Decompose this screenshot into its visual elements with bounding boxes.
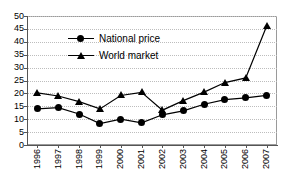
data-point-marker <box>200 88 208 95</box>
x-tick-mark <box>267 145 268 148</box>
data-point-marker <box>201 101 208 108</box>
data-point-marker <box>54 92 62 99</box>
data-point-marker <box>242 74 250 81</box>
y-tick-label: 15 <box>0 102 24 111</box>
data-point-marker <box>117 116 124 123</box>
triangle-marker-icon <box>77 52 85 59</box>
legend-label-world-market: World market <box>94 51 158 61</box>
y-tick-label: 45 <box>0 24 24 33</box>
x-tick-mark <box>183 145 184 148</box>
y-axis-tick-labels: 50454035302520151050 <box>0 16 24 145</box>
data-point-marker <box>117 91 125 98</box>
y-tick-label: 0 <box>0 141 24 150</box>
x-tick-label: 1999 <box>94 149 105 189</box>
data-point-marker <box>34 105 41 112</box>
y-tick-label: 50 <box>0 12 24 21</box>
x-axis-line <box>27 145 278 146</box>
y-tick-label: 35 <box>0 50 24 59</box>
chart-legend: National price World market <box>68 30 188 64</box>
x-tick-mark <box>246 145 247 148</box>
data-point-marker <box>138 119 145 126</box>
x-tick-label: 2003 <box>178 149 189 189</box>
data-point-marker <box>138 88 146 95</box>
x-tick-mark <box>162 145 163 148</box>
x-axis-tick-labels: 1996199719981999200020012002200320042005… <box>27 149 277 189</box>
x-tick-label: 2006 <box>240 149 251 189</box>
x-tick-label: 2004 <box>199 149 210 189</box>
data-point-marker <box>179 97 187 104</box>
x-tick-mark <box>100 145 101 148</box>
x-tick-label: 2005 <box>219 149 230 189</box>
data-point-marker <box>221 79 229 86</box>
data-point-marker <box>242 94 249 101</box>
x-tick-mark <box>225 145 226 148</box>
data-point-marker <box>75 98 83 105</box>
data-point-marker <box>180 107 187 114</box>
legend-item-world-market: World market <box>68 47 188 64</box>
data-point-marker <box>263 22 271 29</box>
x-tick-label: 1997 <box>53 149 64 189</box>
data-point-marker <box>221 96 228 103</box>
y-tick-label: 5 <box>0 128 24 137</box>
data-point-marker <box>96 120 103 127</box>
y-tick-label: 10 <box>0 115 24 124</box>
y-tick-mark <box>24 145 27 146</box>
x-tick-mark <box>37 145 38 148</box>
x-tick-mark <box>142 145 143 148</box>
x-tick-label: 2000 <box>115 149 126 189</box>
x-tick-mark <box>204 145 205 148</box>
y-tick-label: 25 <box>0 76 24 85</box>
x-tick-label: 2002 <box>157 149 168 189</box>
data-point-marker <box>263 92 270 99</box>
data-point-marker <box>33 89 41 96</box>
legend-symbol-triangle <box>68 50 94 62</box>
x-tick-label: 1998 <box>74 149 85 189</box>
x-tick-mark <box>58 145 59 148</box>
data-point-marker <box>96 105 104 112</box>
legend-symbol-circle <box>68 33 94 45</box>
y-tick-label: 40 <box>0 37 24 46</box>
x-tick-label: 2001 <box>136 149 147 189</box>
x-tick-label: 1996 <box>32 149 43 189</box>
x-tick-label: 2007 <box>261 149 272 189</box>
data-point-marker <box>76 111 83 118</box>
y-tick-label: 20 <box>0 89 24 98</box>
data-point-marker <box>55 104 62 111</box>
line-chart: 50454035302520151050 1996199719981999200… <box>0 0 291 189</box>
legend-label-national-price: National price <box>94 34 160 44</box>
circle-marker-icon <box>77 35 84 42</box>
legend-item-national-price: National price <box>68 30 188 47</box>
y-tick-label: 30 <box>0 63 24 72</box>
x-tick-mark <box>121 145 122 148</box>
data-point-marker <box>158 106 166 113</box>
x-tick-mark <box>79 145 80 148</box>
